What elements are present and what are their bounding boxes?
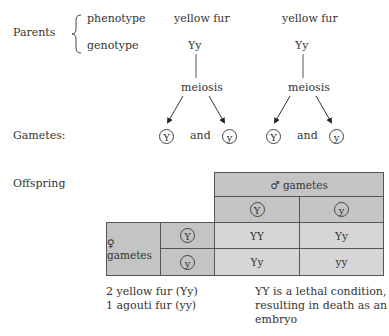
female-gametes-label: ♀ gametes [107, 237, 160, 261]
meiosis-label-2: meiosis [288, 81, 330, 94]
gamete-p1-Y: Y [159, 129, 174, 144]
female-gametes-header: ♀ gametes [106, 222, 161, 276]
lethal-note: YY is a lethal condition, resulting in d… [255, 285, 387, 327]
gametes-label: Gametes: [13, 129, 66, 142]
male-allele-y: y [299, 196, 384, 223]
cell-YY: YY [214, 222, 300, 249]
female-allele-Y: Y [160, 222, 215, 249]
male-gametes-label: ♂ gametes [270, 179, 328, 191]
meiosis-label-1: meiosis [181, 81, 223, 94]
male-allele-Y: Y [214, 196, 300, 223]
cell-yy: yy [299, 248, 384, 276]
cell-Yy-2: Yy [214, 248, 300, 276]
gamete-p1-y: y [222, 129, 237, 144]
gamete-and-2: and [297, 129, 318, 142]
gamete-p2-Y: Y [266, 129, 281, 144]
male-gametes-header: ♂ gametes [214, 172, 384, 197]
offspring-label: Offspring [13, 177, 65, 190]
cell-Yy-1: Yy [299, 222, 384, 249]
ratio-note: 2 yellow fur (Yy) 1 agouti fur (yy) [106, 285, 198, 313]
gamete-p2-y: y [329, 129, 344, 144]
female-allele-y: y [160, 248, 215, 276]
gamete-and-1: and [190, 129, 211, 142]
